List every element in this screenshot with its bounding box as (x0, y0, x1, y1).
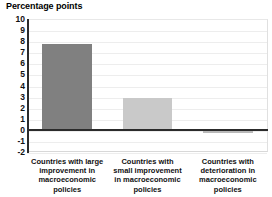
y-axis-tick-label: 0 (1, 126, 25, 135)
plot-area (27, 19, 268, 152)
y-axis-tick-label: 3 (1, 92, 25, 101)
y-axis-tick-label: 8 (1, 37, 25, 46)
gridline (27, 31, 267, 32)
gridline (27, 142, 267, 143)
y-axis-tick-label: 9 (1, 26, 25, 35)
y-axis-tick-label: 2 (1, 103, 25, 112)
y-axis-line (27, 19, 29, 153)
y-axis-tick-label: 7 (1, 48, 25, 57)
y-axis-tick-label: 1 (1, 115, 25, 124)
bar (42, 44, 92, 130)
x-axis-category-label: Countries with deterioration in macroeco… (188, 157, 268, 197)
y-axis-tick-label: -2 (1, 148, 25, 157)
y-axis-tick-label: 10 (1, 15, 25, 24)
bar-chart: Percentage points 109876543210-1-2 Count… (0, 0, 272, 197)
x-axis-category-label: Countries with large improvement in macr… (27, 157, 107, 197)
zero-baseline (27, 129, 268, 131)
y-axis-ticks: 109876543210-1-2 (0, 0, 25, 197)
y-axis-tick-label: 5 (1, 70, 25, 79)
y-axis-tick-label: 6 (1, 59, 25, 68)
x-axis-labels: Countries with large improvement in macr… (27, 157, 268, 197)
y-axis-tick-label: -1 (1, 137, 25, 146)
gridline (27, 153, 267, 154)
gridline (27, 42, 267, 43)
bar (203, 131, 253, 133)
bar (123, 98, 173, 131)
y-axis-tick-label: 4 (1, 81, 25, 90)
x-axis-category-label: Countries with small improvement in macr… (107, 157, 187, 197)
